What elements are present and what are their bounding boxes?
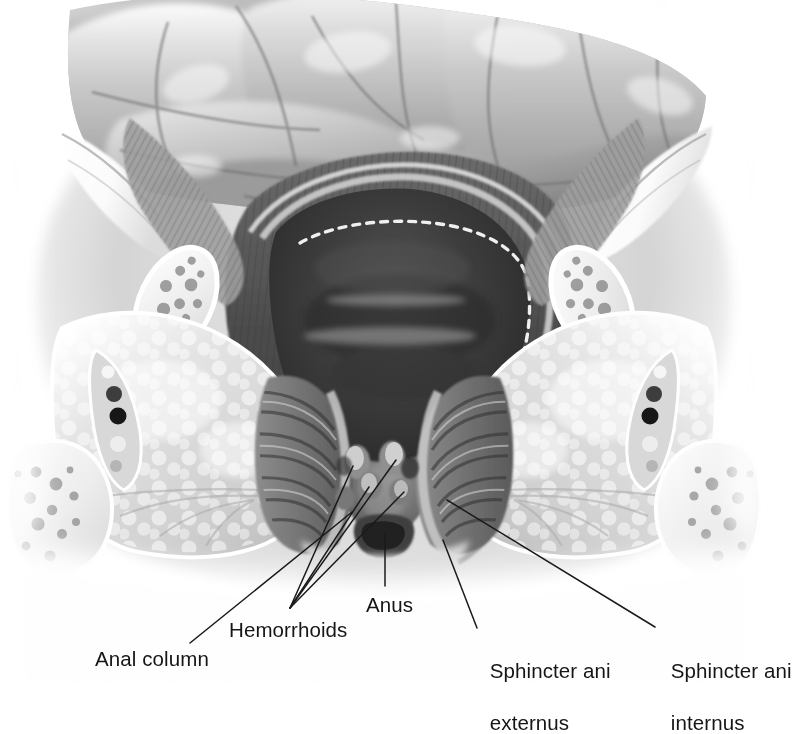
label-sphincter-ani-externus: Sphincter ani externus	[455, 632, 611, 734]
label-anus: Anus	[366, 592, 413, 617]
label-hemorrhoids: Hemorrhoids	[229, 617, 347, 642]
label-sphincter-ani-internus-line1: Sphincter ani	[671, 659, 792, 682]
label-sphincter-ani-internus-line2: internus	[671, 711, 745, 734]
label-sphincter-ani-internus: Sphincter ani internus	[636, 632, 792, 734]
label-anal-column: Anal column	[95, 646, 209, 671]
label-sphincter-ani-externus-line1: Sphincter ani	[490, 659, 611, 682]
label-sphincter-ani-externus-line2: externus	[490, 711, 569, 734]
